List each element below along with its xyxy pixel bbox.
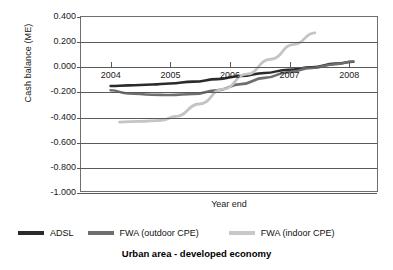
gridline — [81, 67, 377, 68]
gridline — [81, 193, 377, 194]
chart-legend: ADSL FWA (outdoor CPE) FWA (indoor CPE) — [18, 226, 378, 240]
legend-swatch-adsl — [18, 231, 44, 235]
plot-area: 20042005200620072008 — [80, 16, 378, 192]
gridline — [81, 92, 377, 93]
legend-item-adsl: ADSL — [18, 228, 74, 238]
gridline — [81, 42, 377, 43]
x-tick-mark — [170, 62, 171, 67]
y-tick-mark — [77, 17, 81, 18]
y-tick-mark — [77, 118, 81, 119]
chart-container: Cash balance (ME) 0.4000.2000.000-0.200-… — [0, 0, 393, 270]
x-tick-label: 2007 — [280, 70, 300, 80]
x-tick-mark — [111, 62, 112, 67]
x-tick-mark — [230, 62, 231, 67]
x-tick-label: 2005 — [160, 70, 180, 80]
y-tick-label: -1.000 — [50, 187, 76, 197]
y-tick-mark — [77, 67, 81, 68]
y-tick-label: -0.800 — [50, 162, 76, 172]
y-tick-label: 0.000 — [53, 61, 76, 71]
x-tick-label: 2004 — [101, 70, 121, 80]
legend-label-adsl: ADSL — [50, 228, 74, 238]
legend-label-fwa-indoor: FWA (indoor CPE) — [261, 228, 335, 238]
legend-label-fwa-outdoor: FWA (outdoor CPE) — [120, 228, 199, 238]
legend-swatch-fwa-outdoor — [88, 231, 114, 235]
y-tick-mark — [77, 168, 81, 169]
y-tick-label: 0.200 — [53, 36, 76, 46]
x-tick-label: 2006 — [220, 70, 240, 80]
chart-title: Urban area - developed economy — [0, 248, 393, 259]
x-tick-mark — [349, 62, 350, 67]
gridline — [81, 143, 377, 144]
y-axis-tick-labels: 0.4000.2000.000-0.200-0.400-0.600-0.800-… — [28, 0, 76, 200]
y-tick-mark — [77, 42, 81, 43]
gridline — [81, 168, 377, 169]
y-tick-label: -0.200 — [50, 86, 76, 96]
y-tick-mark — [77, 92, 81, 93]
y-tick-mark — [77, 143, 81, 144]
legend-item-fwa-indoor: FWA (indoor CPE) — [229, 228, 335, 238]
legend-swatch-fwa-indoor — [229, 231, 255, 235]
x-tick-label: 2008 — [339, 70, 359, 80]
y-tick-label: -0.600 — [50, 137, 76, 147]
y-tick-label: 0.400 — [53, 11, 76, 21]
x-tick-mark — [290, 62, 291, 67]
gridline — [81, 118, 377, 119]
legend-item-fwa-outdoor: FWA (outdoor CPE) — [88, 228, 199, 238]
x-axis-title: Year end — [80, 199, 378, 209]
y-tick-mark — [77, 193, 81, 194]
y-tick-label: -0.400 — [50, 112, 76, 122]
